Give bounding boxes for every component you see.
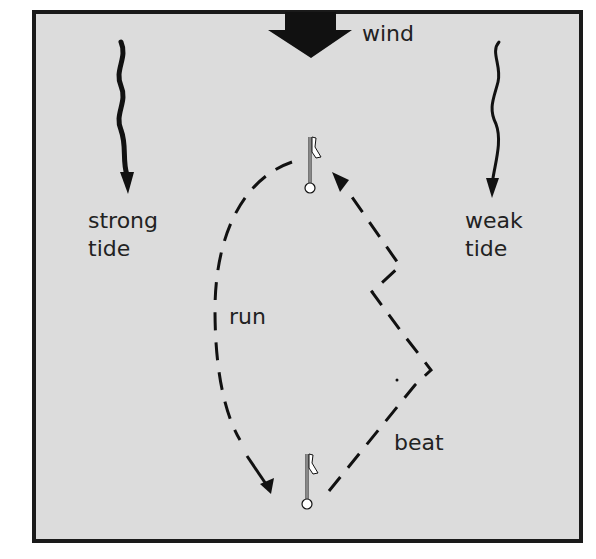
course-diagram	[0, 0, 596, 559]
wind-arrow-icon	[268, 12, 352, 58]
weak-tide-label-line2: tide	[465, 235, 507, 263]
weak-tide-arrow-icon	[486, 42, 499, 198]
windward-mark-icon	[305, 137, 321, 193]
strong-tide-label-line2: tide	[88, 235, 130, 263]
beat-label: beat	[394, 429, 444, 457]
wind-label: wind	[362, 20, 414, 48]
weak-tide-label-line1: weak	[465, 207, 523, 235]
strong-tide-arrow-icon	[119, 42, 134, 194]
strong-tide-label-line1: strong	[88, 207, 158, 235]
leeward-mark-icon	[302, 454, 318, 509]
run-label: run	[229, 303, 266, 331]
